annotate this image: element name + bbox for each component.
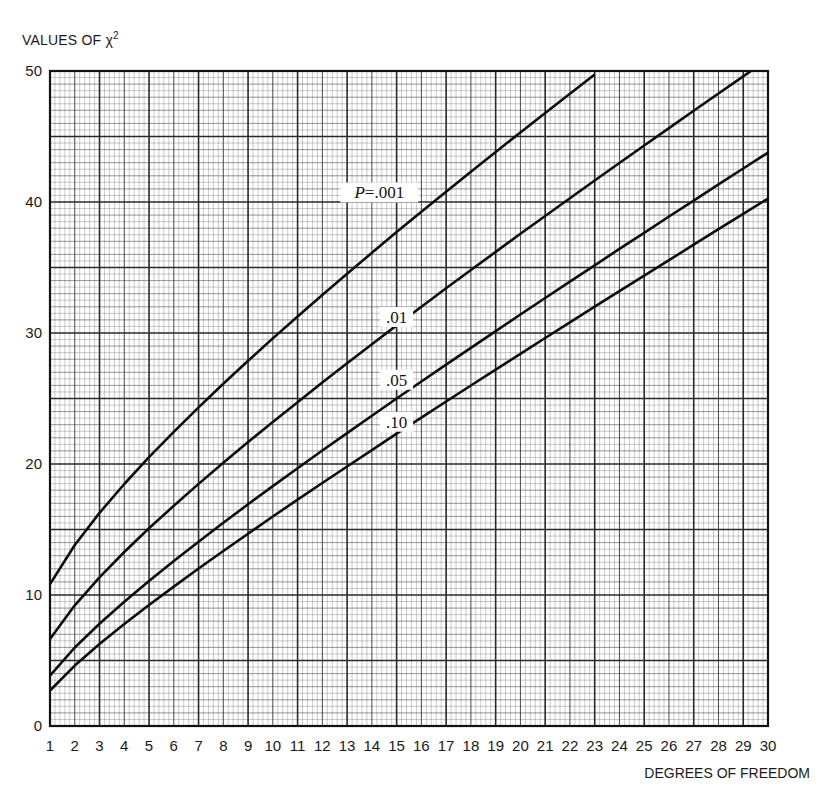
x-tick-label: 4: [120, 737, 128, 754]
x-tick-label: 5: [145, 737, 153, 754]
x-tick-label: 21: [537, 737, 554, 754]
x-axis-title: DEGREES OF FREEDOM: [510, 765, 816, 781]
x-tick-label: 20: [512, 737, 529, 754]
curve-label: P=.001: [340, 182, 418, 202]
x-tick-label: 16: [413, 737, 430, 754]
x-tick-label: 22: [562, 737, 579, 754]
x-tick-label: 27: [685, 737, 702, 754]
chi-square-chart: P=.001.01.05.10 123456789101112131415161…: [0, 0, 816, 795]
x-tick-label: 10: [264, 737, 281, 754]
x-tick-label: 24: [611, 737, 628, 754]
svg-text:P=.001: P=.001: [353, 183, 404, 202]
x-tick-label: 8: [219, 737, 227, 754]
x-tick-label: 25: [636, 737, 653, 754]
curve-label: .05: [380, 370, 413, 390]
y-tick-label: 20: [25, 455, 42, 472]
curve-label: .01: [380, 307, 413, 327]
x-tick-label: 29: [735, 737, 752, 754]
x-tick-label: 30: [760, 737, 777, 754]
y-tick-label: 10: [25, 586, 42, 603]
x-tick-label: 7: [194, 737, 202, 754]
x-tick-label: 2: [71, 737, 79, 754]
svg-text:.01: .01: [386, 308, 407, 327]
x-tick-label: 3: [95, 737, 103, 754]
curve-label: .10: [380, 412, 413, 432]
x-tick-label: 26: [661, 737, 678, 754]
y-tick-label: 40: [25, 193, 42, 210]
x-tick-label: 1: [46, 737, 54, 754]
axis-ticks: 1234567891011121314151617181920212223242…: [25, 62, 776, 754]
svg-text:.10: .10: [386, 413, 407, 432]
x-tick-label: 11: [290, 737, 306, 754]
grid: [50, 71, 768, 726]
x-tick-label: 23: [586, 737, 603, 754]
x-tick-label: 12: [314, 737, 331, 754]
x-tick-label: 19: [487, 737, 504, 754]
x-tick-label: 13: [339, 737, 356, 754]
x-tick-label: 18: [463, 737, 480, 754]
y-tick-label: 50: [25, 62, 42, 79]
x-tick-label: 17: [438, 737, 455, 754]
x-tick-label: 15: [388, 737, 405, 754]
svg-text:.05: .05: [386, 371, 407, 390]
x-tick-label: 6: [170, 737, 178, 754]
x-tick-label: 28: [710, 737, 727, 754]
x-tick-label: 14: [364, 737, 381, 754]
y-tick-label: 30: [25, 324, 42, 341]
x-tick-label: 9: [244, 737, 252, 754]
y-tick-label: 0: [34, 717, 42, 734]
